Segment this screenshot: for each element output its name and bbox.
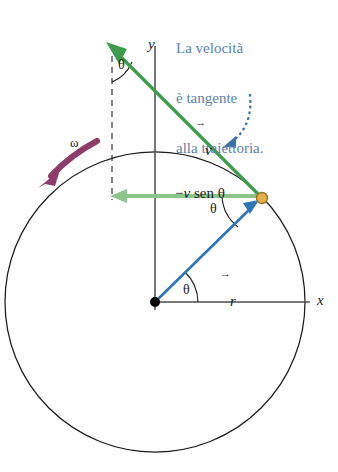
callout-line-1: La velocità	[176, 40, 263, 57]
theta-label-origin: θ	[183, 282, 190, 298]
y-axis-label: y	[148, 36, 155, 53]
angular-velocity-label: ω	[70, 136, 79, 151]
velocity-label-text: v	[205, 142, 212, 158]
component-theta-symbol: θ	[218, 185, 225, 201]
theta-label-top: θ	[118, 57, 125, 73]
particle-marker	[257, 193, 268, 204]
theta-label-particle: θ	[210, 201, 217, 217]
radius-overbar-icon: →	[215, 271, 236, 277]
component-sin-text: sen	[190, 185, 218, 201]
velocity-overbar-icon: →	[190, 120, 212, 126]
diagram-canvas	[0, 0, 338, 472]
physics-diagram-circular-motion: La velocità è tangente alla traiettoria.…	[0, 0, 338, 472]
origin-dot	[150, 297, 160, 307]
radius-vector-label: → r	[215, 237, 236, 327]
x-axis-label: x	[317, 292, 324, 309]
velocity-vector-label: → v	[190, 86, 212, 176]
radius-label-text: r	[230, 293, 236, 309]
angular-velocity-arrow	[38, 141, 97, 188]
